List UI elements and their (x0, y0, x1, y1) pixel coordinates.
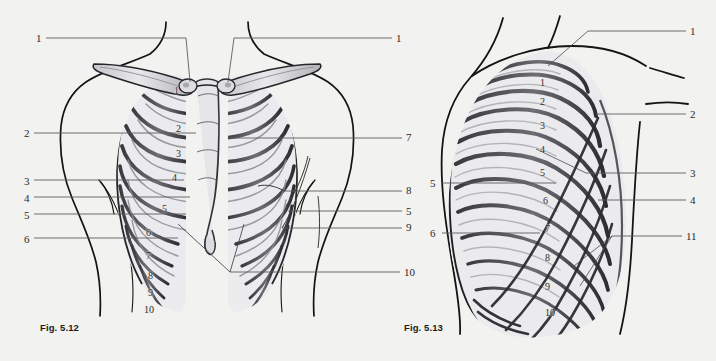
fig-5-12-label-right-1: 1 (396, 33, 402, 44)
fig-5-12-rib-number-9: 9 (148, 288, 153, 298)
fig-5-12-rib-number-5: 5 (162, 204, 167, 214)
fig-5-12-rib-number-8: 8 (148, 271, 153, 281)
fig-5-12-label-right-8: 8 (406, 185, 412, 196)
fig-5-12-rib-number-10: 10 (144, 305, 154, 315)
fig-5-12-label-left-1: 1 (36, 33, 42, 44)
fig-5-13-rib-number-4: 4 (540, 145, 545, 155)
fig-5-12-rib-number-3: 3 (176, 149, 181, 159)
fig-5-12-rib-number-2: 2 (176, 124, 181, 134)
fig-5-12-right-ribs (221, 74, 298, 312)
fig-5-12-label-right-10: 10 (404, 267, 415, 278)
fig-5-13-rib-number-7: 7 (545, 224, 550, 234)
fig-5-13-label-right-3: 3 (690, 168, 696, 179)
fig-5-13-rib-number-3: 3 (540, 121, 545, 131)
fig-5-12-left-ribs (116, 74, 193, 312)
fig-5-13-rib-number-5: 5 (540, 168, 545, 178)
fig-5-12-rib-number-7: 7 (146, 251, 151, 261)
fig-5-13-label-left-5: 5 (430, 178, 436, 189)
fig-5-12-label-right-5: 5 (406, 206, 412, 217)
anatomy-figure-page: 1 2 3 4 5 6 1 7 8 5 9 10 1 2 3 4 5 6 7 8… (0, 0, 716, 361)
fig-5-13-label-right-1: 1 (690, 26, 696, 37)
fig-5-13-label-left-6: 6 (430, 228, 436, 239)
fig-5-13-ribs (448, 51, 626, 358)
fig-5-12-label-left-3: 3 (24, 176, 30, 187)
fig-5-13-label-right-2: 2 (690, 109, 696, 120)
fig-5-12-label-left-5: 5 (24, 210, 30, 221)
fig-5-12-caption: Fig. 5.12 (40, 322, 79, 333)
fig-5-12-rib-number-6: 6 (146, 228, 151, 238)
fig-5-12-label-left-2: 2 (24, 128, 30, 139)
fig-5-13-label-right-4: 4 (690, 195, 696, 206)
fig-5-12-label-left-6: 6 (24, 234, 30, 245)
fig-5-13-caption: Fig. 5.13 (404, 322, 443, 333)
fig-5-13-rib-number-1: 1 (540, 78, 545, 88)
fig-5-12-rib-number-4: 4 (172, 173, 177, 183)
fig-5-13-rib-number-6: 6 (543, 196, 548, 206)
fig-5-12-label-right-9: 9 (406, 222, 412, 233)
fig-5-13-rib-number-8: 8 (545, 253, 550, 263)
fig-5-13-rib-number-9: 9 (545, 282, 550, 292)
fig-5-13-rib-number-2: 2 (540, 97, 545, 107)
fig-5-12-pointer-1-right (228, 38, 234, 82)
fig-5-12-rib-number-1: 1 (174, 86, 179, 96)
fig-5-12-label-left-4: 4 (24, 193, 30, 204)
fig-5-13-rib-number-10: 10 (545, 308, 555, 318)
rib-cage-illustrations (0, 0, 716, 361)
fig-5-12-sternum (196, 79, 219, 254)
fig-5-13-label-right-11: 11 (686, 231, 697, 242)
fig-5-12-pointer-1-left (186, 38, 190, 82)
fig-5-12-label-right-7: 7 (406, 132, 412, 143)
